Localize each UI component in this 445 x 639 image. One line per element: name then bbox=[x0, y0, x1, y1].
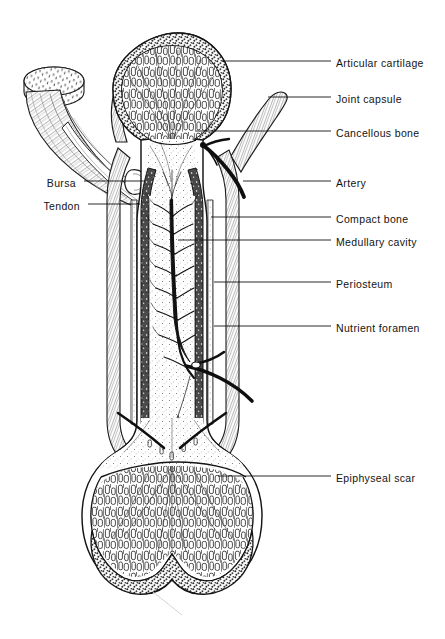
label-joint-capsule: Joint capsule bbox=[336, 93, 402, 105]
label-articular-cartilage: Articular cartilage bbox=[336, 57, 424, 69]
label-compact-bone: Compact bone bbox=[336, 213, 409, 225]
label-periosteum: Periosteum bbox=[336, 278, 393, 290]
label-epiphyseal-scar: Epiphyseal scar bbox=[336, 472, 415, 484]
label-cancellous-bone: Cancellous bone bbox=[336, 127, 419, 139]
label-artery: Artery bbox=[336, 177, 366, 189]
label-bursa: Bursa bbox=[0, 177, 76, 189]
bone-anatomy-figure: Articular cartilageJoint capsuleCancello… bbox=[0, 0, 445, 639]
label-tendon: Tendon bbox=[0, 200, 80, 212]
label-nutrient-foramen: Nutrient foramen bbox=[336, 322, 420, 334]
label-medullary-cavity: Medullary cavity bbox=[336, 236, 417, 248]
distal-epiphysis bbox=[85, 460, 265, 594]
